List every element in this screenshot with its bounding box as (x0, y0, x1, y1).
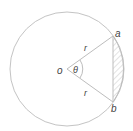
hatched-segment (113, 36, 124, 102)
angle-arc (80, 60, 83, 78)
label-theta: θ (73, 65, 78, 75)
label-point-a: a (115, 28, 121, 39)
label-radius-bottom: r (84, 88, 88, 98)
label-point-b: b (111, 103, 117, 114)
label-radius-top: r (84, 43, 88, 53)
label-center-o: o (57, 65, 63, 76)
circle-segment-diagram: o θ r r a b (0, 0, 133, 131)
